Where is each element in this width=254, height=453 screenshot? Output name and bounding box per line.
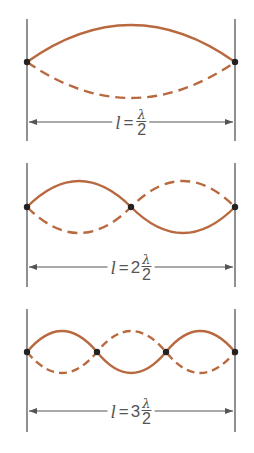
wave-dashed bbox=[27, 62, 235, 98]
denominator: 2 bbox=[142, 411, 151, 427]
equals-sign: = bbox=[119, 258, 129, 278]
wavelength-fraction: λ 2 bbox=[141, 397, 151, 427]
harmonic-coefficient: 3 bbox=[131, 402, 140, 422]
wavelength-fraction: λ 2 bbox=[141, 253, 151, 283]
length-label-fundamental: l = λ 2 bbox=[112, 108, 149, 138]
wave-solid bbox=[27, 25, 235, 62]
node-dot bbox=[24, 59, 30, 65]
denominator: 2 bbox=[142, 267, 151, 283]
equals-sign: = bbox=[119, 402, 129, 422]
denominator: 2 bbox=[137, 122, 146, 138]
harmonic-coefficient: 2 bbox=[131, 258, 140, 278]
lambda-symbol: λ bbox=[136, 108, 146, 122]
node-dot bbox=[232, 349, 238, 355]
lambda-symbol: λ bbox=[141, 397, 151, 411]
length-variable: l bbox=[111, 401, 116, 423]
wavelength-fraction: λ 2 bbox=[136, 108, 146, 138]
node-dot bbox=[24, 349, 30, 355]
length-label-second-harmonic: l = 2 λ 2 bbox=[108, 253, 155, 283]
node-dot bbox=[128, 204, 134, 210]
standing-waves-diagram bbox=[0, 0, 254, 453]
node-dot bbox=[232, 59, 238, 65]
length-variable: l bbox=[115, 112, 120, 134]
node-dot bbox=[94, 349, 100, 355]
length-label-third-harmonic: l = 3 λ 2 bbox=[108, 397, 155, 427]
length-variable: l bbox=[111, 257, 116, 279]
lambda-symbol: λ bbox=[141, 253, 151, 267]
node-dot bbox=[163, 349, 169, 355]
node-dot bbox=[24, 204, 30, 210]
wave-solid bbox=[27, 331, 235, 373]
wave-dashed bbox=[27, 331, 235, 373]
equals-sign: = bbox=[124, 113, 134, 133]
node-dot bbox=[232, 204, 238, 210]
